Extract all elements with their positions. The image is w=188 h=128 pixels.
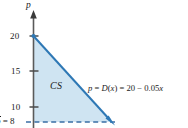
equation-paren-close: ) [114,83,117,93]
y-tick-label-20: 20 [10,32,19,41]
equation-coefficient-variable: x [159,83,163,93]
equation-minus: − [137,83,142,93]
equation-equals-2: = [119,83,124,93]
consumer-surplus-label: CS [50,81,62,91]
demand-curve-consumer-surplus-chart [0,0,188,128]
demand-equation-label: p = D(x) = 20 − 0.05x [88,84,163,93]
equation-p: p [88,83,92,93]
y-tick-label-15: 15 [11,67,20,76]
equation-equals-1: = [94,83,99,93]
y-tick-label-10: 10 [11,103,20,112]
p-bar-symbol: p [0,117,1,126]
equation-intercept: 20 [126,83,135,93]
y-axis-label: p [26,1,31,11]
y-axis-arrowhead [30,10,37,19]
y-intercept-marker [31,34,35,38]
equation-coefficient: 0.05 [144,83,159,93]
equilibrium-price-label: p = 8 [0,117,15,126]
equilibrium-price-value: = 8 [1,116,15,126]
